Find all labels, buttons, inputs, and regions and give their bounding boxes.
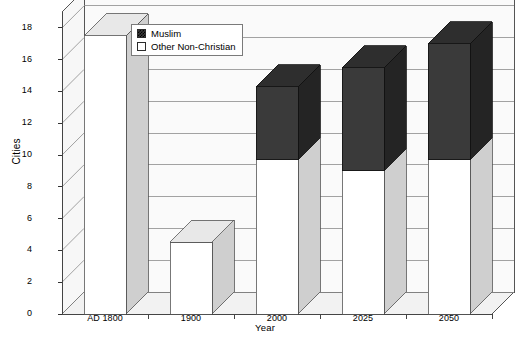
x-tick-label-ad-1800: AD 1800: [60, 313, 150, 323]
x-tick-label-2050: 2050: [404, 313, 494, 323]
chart-container: Cities Year 024681012141618 AD 180019002…: [0, 0, 530, 339]
chart-plot-area: [0, 0, 530, 339]
legend-item-other-non-christian: Other Non-Christian: [137, 41, 235, 52]
x-axis-title: Year: [0, 322, 530, 333]
legend-swatch-other-icon: [137, 42, 146, 51]
y-tick-label-18: 18: [6, 23, 32, 32]
y-axis-tick-labels: 024681012141618: [6, 0, 32, 339]
y-tick-label-6: 6: [6, 214, 32, 223]
x-tick-label-1900: 1900: [146, 313, 236, 323]
chart-legend: Muslim Other Non-Christian: [131, 24, 243, 56]
y-tick-label-10: 10: [6, 150, 32, 159]
x-tick-label-2025: 2025: [318, 313, 408, 323]
legend-swatch-muslim-icon: [137, 29, 146, 38]
y-tick-label-0: 0: [6, 309, 32, 318]
y-tick-label-14: 14: [6, 86, 32, 95]
y-tick-label-16: 16: [6, 55, 32, 64]
y-tick-label-2: 2: [6, 277, 32, 286]
y-tick-label-8: 8: [6, 182, 32, 191]
legend-label-muslim: Muslim: [151, 28, 181, 39]
legend-item-muslim: Muslim: [137, 28, 235, 39]
legend-label-other-non-christian: Other Non-Christian: [151, 41, 235, 52]
y-tick-label-12: 12: [6, 118, 32, 127]
x-tick-label-2000: 2000: [232, 313, 322, 323]
y-tick-label-4: 4: [6, 245, 32, 254]
